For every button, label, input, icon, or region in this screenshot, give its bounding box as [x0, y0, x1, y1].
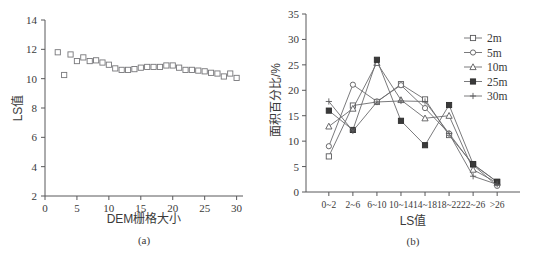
panel-b-svg: 05101520253035 0~22~66~1010~1414~1818~22…	[268, 0, 538, 256]
panel-b-y-tick-label: 5	[294, 161, 300, 173]
panel-a-y-tick-label: 14	[26, 14, 38, 26]
panel-b-series-marker	[446, 113, 452, 119]
legend-label-10m: 10m	[487, 61, 508, 73]
panel-b-series-marker	[326, 154, 331, 159]
panel-b-x-tick-label: 14~18	[413, 200, 437, 210]
panel-a-scatter-chart: 2468101214 051015202530 LS值 DEM栅格大小 (a)	[0, 0, 268, 256]
panel-a-data-point	[55, 50, 60, 55]
panel-b-x-tick-label: 2~6	[346, 200, 361, 210]
panel-a-data-point	[100, 60, 105, 65]
panel-a-data-point	[164, 63, 169, 68]
panel-a-x-tick-label: 25	[199, 202, 211, 214]
panel-a-x-tick-label: 0	[42, 202, 48, 214]
panel-a-data-point	[196, 68, 201, 73]
panel-a-svg: 2468101214 051015202530 LS值 DEM栅格大小 (a)	[0, 0, 268, 256]
panel-b-series-marker	[350, 82, 355, 87]
panel-b-series-25m	[326, 57, 500, 184]
panel-a-data-point	[119, 67, 124, 72]
panel-b-x-tick-label: >26	[490, 200, 505, 210]
panel-a-data-point	[234, 75, 239, 80]
panel-a-data-point	[106, 62, 111, 67]
panel-b-series-marker	[398, 98, 404, 104]
panel-b-series-marker	[326, 123, 332, 129]
panel-b-series-marker	[398, 118, 403, 123]
panel-b-x-tick-label: 0~2	[322, 200, 337, 210]
panel-b-y-tick-label: 30	[288, 33, 300, 45]
legend-item-2m[interactable]: 2m	[464, 32, 502, 44]
panel-b-x-tick-label: 22~26	[461, 200, 485, 210]
panel-a-y-axis-label: LS值	[10, 95, 25, 122]
legend-label-25m: 25m	[487, 76, 508, 88]
panel-b-x-tick-label: 10~14	[389, 200, 413, 210]
panel-b-y-axis-label: 面积百分比/%	[269, 63, 283, 137]
panel-b-x-axis-label: LS值	[400, 213, 427, 228]
panel-a-data-point	[87, 58, 92, 63]
panel-b-legend: 2m5m10m25m30m	[464, 32, 508, 102]
panel-b-series-marker	[326, 144, 331, 149]
panel-b-series-marker	[374, 57, 379, 62]
panel-b-series-marker	[326, 108, 331, 113]
panel-a-x-axis-label: DEM栅格大小	[107, 211, 182, 226]
panel-a-data-point	[62, 72, 67, 77]
panel-a-x-tick-label: 30	[231, 202, 243, 214]
panel-b-series-group	[326, 57, 501, 188]
panel-b-series-marker	[446, 102, 451, 107]
legend-marker-open-square-icon	[470, 35, 475, 40]
panel-a-y-tick-label: 10	[26, 73, 38, 85]
panel-b-y-ticks: 05101520253035	[288, 8, 306, 198]
panel-a-data-point	[145, 64, 150, 69]
panel-a-data-point	[208, 70, 213, 75]
panel-a-data-point	[81, 55, 86, 60]
legend-marker-filled-square-icon	[470, 79, 475, 84]
panel-a-caption: (a)	[138, 234, 151, 247]
panel-a-y-tick-label: 12	[26, 43, 37, 55]
panel-a-data-point	[151, 64, 156, 69]
panel-a-data-point	[221, 74, 226, 79]
panel-b-x-tick-label: 6~10	[367, 200, 387, 210]
panel-a-axes	[45, 20, 243, 196]
panel-a-data-point	[68, 52, 73, 57]
panel-a-y-tick-label: 4	[32, 161, 38, 173]
panel-a-data-point	[138, 65, 143, 70]
panel-a-y-tick-label: 8	[32, 102, 38, 114]
legend-marker-plus-icon	[470, 93, 476, 99]
panel-b-series-marker	[422, 105, 427, 110]
legend-item-10m[interactable]: 10m	[464, 61, 508, 73]
panel-a-data-point	[94, 58, 99, 63]
panel-a-data-point	[215, 71, 220, 76]
panel-b-y-tick-label: 0	[294, 186, 300, 198]
panel-a-y-tick-label: 6	[32, 131, 38, 143]
legend-marker-open-circle-icon	[470, 50, 475, 55]
panel-a-data-point	[202, 69, 207, 74]
legend-label-2m: 2m	[487, 32, 502, 44]
panel-b-line-chart: 05101520253035 0~22~66~1010~1414~1818~22…	[268, 0, 538, 256]
legend-label-30m: 30m	[487, 90, 508, 102]
legend-item-30m[interactable]: 30m	[464, 90, 508, 102]
panel-a-data-point	[113, 66, 118, 71]
panel-b-y-tick-label: 10	[288, 135, 300, 147]
panel-a-data-points	[55, 50, 239, 81]
panel-a-data-point	[177, 65, 182, 70]
panel-b-y-tick-label: 35	[288, 8, 300, 20]
panel-b-series-marker	[471, 161, 476, 166]
panel-b-x-tick-label: 18~22	[437, 200, 461, 210]
panel-b-series-marker	[470, 173, 476, 179]
panel-a-data-point	[170, 63, 175, 68]
legend-label-5m: 5m	[487, 47, 502, 59]
panel-b-y-tick-label: 25	[288, 59, 300, 71]
legend-item-5m[interactable]: 5m	[464, 47, 502, 59]
panel-b-caption: (b)	[407, 235, 420, 248]
panel-a-y-tick-label: 2	[32, 190, 38, 202]
panel-a-data-point	[183, 67, 188, 72]
panel-a-data-point	[157, 64, 162, 69]
panel-b-series-marker	[398, 83, 403, 88]
panel-b-y-tick-label: 15	[288, 110, 300, 122]
panel-a-data-point	[189, 67, 194, 72]
panel-a-x-tick-label: 5	[74, 202, 80, 214]
panel-b-series-marker	[422, 143, 427, 148]
panel-a-data-point	[74, 58, 79, 63]
panel-b-y-tick-label: 20	[288, 84, 300, 96]
figure-container: 2468101214 051015202530 LS值 DEM栅格大小 (a) …	[0, 0, 538, 256]
panel-a-y-ticks: 2468101214	[26, 14, 45, 202]
legend-item-25m[interactable]: 25m	[464, 76, 508, 88]
